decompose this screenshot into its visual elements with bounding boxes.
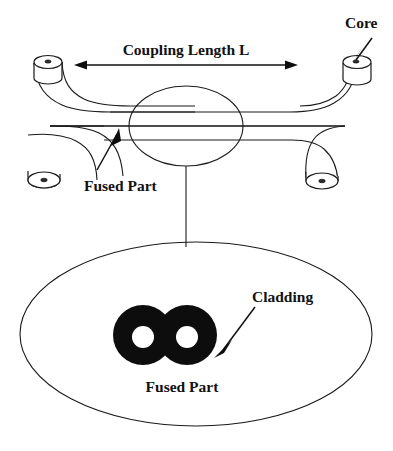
- side-view-group: Coupling Length L Core Fused Part: [28, 14, 378, 247]
- coupling-length-arrowhead-left: [74, 61, 87, 70]
- core-right: [176, 326, 198, 348]
- cladding-arrow-shaft: [223, 307, 255, 350]
- fiber-end-top-right: [343, 56, 371, 86]
- fused-part-top-arrowhead: [111, 128, 121, 146]
- core-dot-bottom-right: [319, 179, 325, 183]
- fiber-upper-left-lower-edge: [62, 62, 195, 106]
- figure-canvas: Coupling Length L Core Fused Part: [0, 0, 393, 451]
- fiber-end-bottom-right: [306, 172, 338, 189]
- core-dot-bottom-left: [41, 178, 47, 182]
- fiber-end-bottom-left: [28, 171, 60, 188]
- coupling-length-arrow: [74, 61, 298, 70]
- core-left: [132, 326, 154, 348]
- core-dot-top-left: [45, 60, 51, 63]
- fiber-end-top-left: [34, 56, 62, 85]
- coupling-length-label: Coupling Length L: [123, 41, 250, 58]
- coupling-length-arrowhead-right: [285, 61, 298, 70]
- fused-part-top-label: Fused Part: [84, 177, 158, 194]
- cladding-annotation: Cladding: [214, 288, 313, 358]
- fiber-lower-left-upper-edge: [50, 126, 123, 176]
- core-label: Core: [345, 14, 378, 31]
- fiber-lower-right-outer-edge: [306, 126, 345, 178]
- fused-coupler-figure: Coupling Length L Core Fused Part: [0, 0, 393, 451]
- fused-part-bottom-label: Fused Part: [146, 378, 220, 395]
- cross-section-group: Cladding Fused Part: [20, 242, 372, 426]
- cladding-label: Cladding: [252, 288, 313, 305]
- core-dot-top-right: [353, 60, 359, 63]
- cladding-arrowhead: [214, 340, 232, 358]
